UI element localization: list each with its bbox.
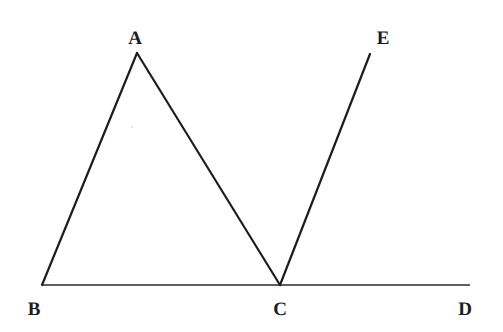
vertex-label-C-text: C [273, 300, 287, 319]
vertex-label-E: E [377, 29, 390, 48]
vertex-label-B-text: B [28, 300, 41, 319]
figure-background [0, 0, 503, 332]
geometry-figure: A B C D E [0, 0, 503, 332]
scan-speck-artifact [131, 126, 133, 128]
vertex-label-A-text: A [128, 29, 142, 48]
figure-canvas [0, 0, 503, 332]
vertex-label-D-text: D [458, 300, 472, 319]
vertex-label-B: B [28, 300, 41, 319]
vertex-label-D: D [458, 300, 472, 319]
vertex-label-A: A [128, 29, 142, 48]
vertex-label-E-text: E [377, 29, 390, 48]
vertex-label-C: C [273, 300, 287, 319]
